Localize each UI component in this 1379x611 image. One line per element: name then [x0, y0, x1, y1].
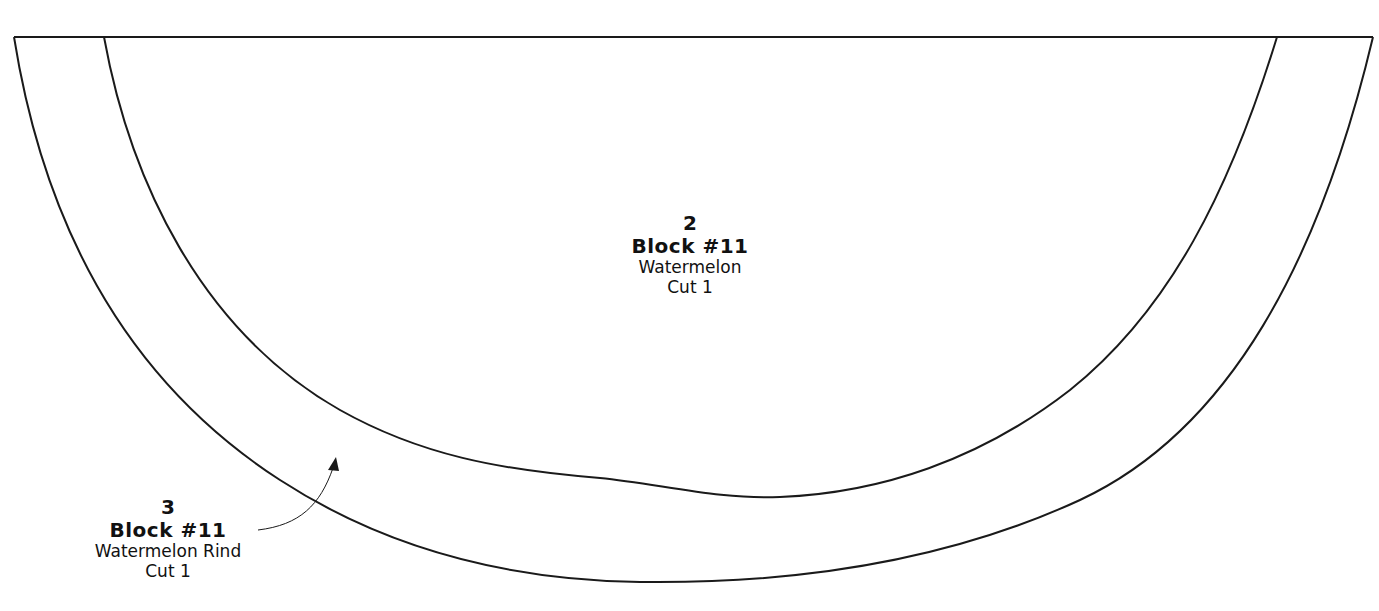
cut-count: Cut 1	[58, 562, 278, 582]
piece-number: 3	[58, 496, 278, 519]
block-number: Block #11	[590, 235, 790, 258]
piece-number: 2	[590, 212, 790, 235]
block-number: Block #11	[58, 519, 278, 542]
arrowhead-icon	[328, 457, 339, 471]
piece-name: Watermelon	[590, 258, 790, 278]
piece-name: Watermelon Rind	[58, 542, 278, 562]
cut-count: Cut 1	[590, 278, 790, 298]
piece-label-watermelon-rind: 3 Block #11 Watermelon Rind Cut 1	[58, 496, 278, 581]
piece-label-watermelon: 2 Block #11 Watermelon Cut 1	[590, 212, 790, 297]
